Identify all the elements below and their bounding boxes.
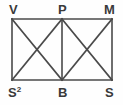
vertex-label-s-squared-superscript: 2 [17, 85, 21, 94]
vertex-label-v: V [9, 3, 18, 16]
vertex-label-m-text: M [104, 2, 115, 17]
vertex-label-p: P [58, 3, 67, 16]
vertex-label-v-text: V [9, 2, 18, 17]
vertex-label-s: S [105, 86, 114, 99]
vertex-label-b-text: B [58, 85, 67, 100]
vertex-label-p-text: P [58, 2, 67, 17]
vertex-label-s-squared-text: S [8, 85, 17, 100]
vertex-label-b: B [58, 86, 67, 99]
vertex-label-s-squared: S2 [8, 86, 21, 99]
geometry-figure-canvas: V P M S2 B S [0, 0, 123, 105]
vertex-label-m: M [104, 3, 115, 16]
vertex-label-s-text: S [105, 85, 114, 100]
